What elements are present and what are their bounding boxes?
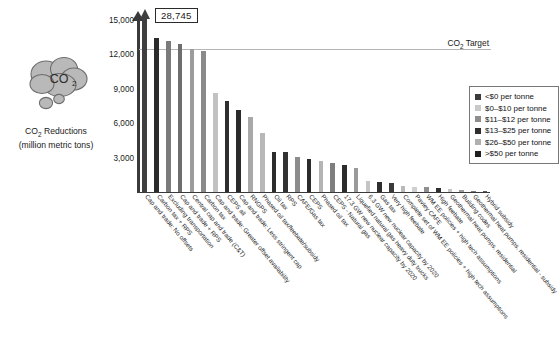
bar[interactable] (190, 49, 195, 192)
bar-slot[interactable] (256, 20, 268, 192)
bar-slot[interactable] (432, 20, 444, 192)
bar[interactable] (354, 168, 359, 192)
bar-slot[interactable] (374, 20, 386, 192)
co2-cloud-icon: CO 2 (2, 52, 110, 124)
bar[interactable] (260, 133, 265, 192)
bar[interactable] (283, 152, 288, 192)
bar-group (139, 20, 491, 192)
bar[interactable] (295, 157, 300, 192)
callout-value: 28,745 (161, 10, 192, 21)
bar[interactable] (225, 101, 230, 192)
legend-swatch-icon (475, 105, 481, 111)
legend-item[interactable]: >$50 per tonne (475, 148, 551, 159)
legend-item-label: $11–$12 per tonne (485, 115, 551, 124)
bar[interactable] (178, 44, 183, 192)
bar[interactable] (236, 110, 241, 192)
bar-slot[interactable] (292, 20, 304, 192)
y-axis-tick-label: 12,000 (109, 50, 134, 59)
bar[interactable] (448, 189, 453, 192)
bar[interactable] (213, 93, 218, 192)
bar[interactable] (471, 191, 476, 192)
bar-slot[interactable] (385, 20, 397, 192)
legend-swatch-icon (475, 116, 481, 122)
bar[interactable] (201, 51, 206, 192)
x-axis-label-group: Cap and trade: No offsetsCarbon tax + RP… (139, 194, 491, 354)
bar-slot[interactable] (421, 20, 433, 192)
bar-slot[interactable] (397, 20, 409, 192)
bar[interactable] (154, 38, 159, 192)
legend-item[interactable]: $11–$12 per tonne (475, 114, 551, 125)
bar-slot[interactable] (362, 20, 374, 192)
legend-item[interactable]: $26–$50 per tonne (475, 137, 551, 148)
bar-slot[interactable] (280, 20, 292, 192)
bar[interactable] (389, 183, 394, 192)
co2-reductions-caption-block: CO 2 CO2 Reductions (million metric tons… (2, 52, 110, 151)
bar[interactable] (483, 191, 488, 192)
svg-text:CO: CO (50, 72, 69, 86)
caption-co2-text: CO (25, 126, 38, 136)
bar[interactable] (248, 117, 253, 192)
bar[interactable] (342, 165, 347, 192)
legend-item[interactable]: <$0 per tonne (475, 91, 551, 102)
bar-slot[interactable] (162, 20, 174, 192)
bar-slot[interactable] (268, 20, 280, 192)
bar-slot[interactable] (174, 20, 186, 192)
legend-item-label: $26–$50 per tonne (485, 138, 551, 147)
bar[interactable] (412, 187, 417, 192)
bar-slot[interactable] (245, 20, 257, 192)
y-axis-tick-label: 15,000 (109, 16, 134, 25)
bar[interactable] (366, 181, 371, 192)
co2-reductions-caption: CO2 Reductions (million metric tons) (2, 126, 110, 151)
bar-slot[interactable] (444, 20, 456, 192)
bar-slot[interactable] (233, 20, 245, 192)
legend-item-label: <$0 per tonne (485, 92, 534, 101)
y-axis-tick-label: 3,000 (114, 153, 135, 162)
legend-item-label: $13–$25 per tonne (485, 126, 551, 135)
y-axis-tick-label: 6,000 (114, 119, 135, 128)
legend-swatch-icon (475, 128, 481, 134)
plot-area: 3,0006,0009,00012,00015,000 CO2 Target 2… (139, 20, 491, 192)
bar-arrow-tip-icon (140, 9, 150, 19)
bar-slot[interactable] (303, 20, 315, 192)
bar[interactable] (307, 159, 312, 192)
bar-slot[interactable] (409, 20, 421, 192)
callout-28745: 28,745 (155, 8, 198, 23)
bar[interactable] (142, 18, 147, 192)
legend-swatch-icon (475, 151, 481, 157)
legend-item-label: $0–$10 per tonne (485, 104, 547, 113)
bar[interactable] (377, 182, 382, 192)
legend-item-label: >$50 per tonne (485, 149, 538, 158)
legend-swatch-icon (475, 139, 481, 145)
legend-item[interactable]: $13–$25 per tonne (475, 125, 551, 136)
bar-slot[interactable] (151, 20, 163, 192)
bar[interactable] (272, 152, 277, 192)
bar-slot[interactable] (186, 20, 198, 192)
bar-slot[interactable] (209, 20, 221, 192)
bar[interactable] (424, 187, 429, 192)
chart-legend: <$0 per tonne$0–$10 per tonne$11–$12 per… (469, 86, 559, 164)
legend-swatch-icon (475, 94, 481, 100)
legend-item[interactable]: $0–$10 per tonne (475, 102, 551, 113)
y-axis-tick-label: 9,000 (114, 84, 135, 93)
caption-units: (million metric tons) (2, 140, 110, 151)
svg-text:2: 2 (72, 79, 77, 88)
x-axis-tick-label: Geothermal heat pumps, residential - sub… (472, 194, 558, 295)
bar[interactable] (436, 188, 441, 192)
caption-reductions-text: Reductions (42, 126, 87, 136)
bar-slot[interactable] (327, 20, 339, 192)
bar-slot[interactable] (456, 20, 468, 192)
bar[interactable] (166, 41, 171, 192)
bar-slot[interactable] (338, 20, 350, 192)
bar-slot[interactable] (350, 20, 362, 192)
bar[interactable] (330, 163, 335, 192)
bar[interactable] (319, 161, 324, 192)
bar[interactable] (401, 186, 406, 192)
bar-slot[interactable] (221, 20, 233, 192)
bar-slot[interactable] (198, 20, 210, 192)
bar[interactable] (459, 190, 464, 192)
bar-slot[interactable] (139, 20, 151, 192)
bar-slot[interactable] (315, 20, 327, 192)
